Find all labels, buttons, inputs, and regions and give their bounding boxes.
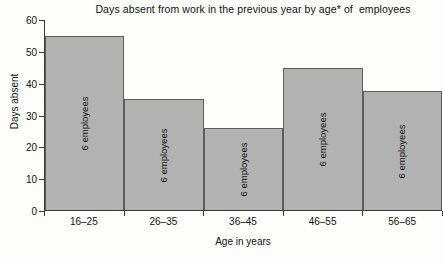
- bar-26-35[interactable]: 6 employees: [124, 99, 203, 210]
- y-axis-tick-label: 30: [26, 110, 37, 121]
- y-axis-tick: [39, 147, 44, 148]
- x-axis-tick-label: 46–55: [283, 216, 363, 227]
- x-axis-tick-labels: 16–2526–3536–4546–5556–65: [44, 216, 442, 227]
- y-axis-tick-label: 0: [31, 206, 37, 217]
- bar-36-45[interactable]: 6 employees: [204, 128, 283, 210]
- bar-annotation: 6 employees: [238, 142, 249, 196]
- y-axis-tick-label: 60: [26, 15, 37, 26]
- x-axis-tick-label: 36–45: [203, 216, 283, 227]
- bar-annotation: 6 employees: [317, 112, 328, 166]
- y-axis-tick: [39, 84, 44, 85]
- y-axis-tick: [39, 179, 44, 180]
- bar-annotation: 6 employees: [397, 124, 408, 178]
- x-axis-title: Age in years: [44, 236, 442, 247]
- y-axis-tick: [39, 20, 44, 21]
- x-axis-tick-label: 56–65: [362, 216, 442, 227]
- bar-46-55[interactable]: 6 employees: [283, 68, 362, 211]
- bar-16-25[interactable]: 6 employees: [45, 36, 124, 210]
- y-axis-tick-label: 10: [26, 174, 37, 185]
- bar-56-65[interactable]: 6 employees: [363, 91, 442, 210]
- x-axis-tick-label: 26–35: [124, 216, 204, 227]
- y-axis-tick: [39, 116, 44, 117]
- bar-series: 6 employees6 employees6 employees6 emplo…: [45, 20, 442, 210]
- y-axis-title: Days absent: [9, 67, 20, 137]
- chart-title: Days absent from work in the previous ye…: [64, 3, 442, 15]
- x-axis-line: [44, 210, 442, 211]
- plot-area: 0102030405060 6 employees6 employees6 em…: [44, 20, 442, 211]
- y-axis-tick-label: 20: [26, 142, 37, 153]
- y-axis-tick-label: 50: [26, 46, 37, 57]
- y-axis-tick-label: 40: [26, 78, 37, 89]
- bar-annotation: 6 employees: [159, 128, 170, 182]
- y-axis-tick: [39, 52, 44, 53]
- bar-annotation: 6 employees: [79, 96, 90, 150]
- x-axis-tick-label: 16–25: [44, 216, 124, 227]
